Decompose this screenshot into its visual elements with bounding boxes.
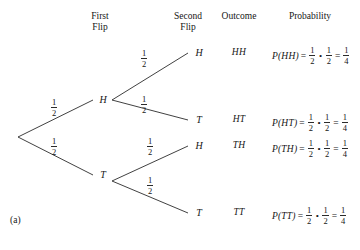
fraction-denominator: 2 — [141, 104, 147, 114]
fraction-numerator: 1 — [51, 98, 57, 107]
factor-two: 1 2 — [322, 206, 328, 225]
fraction-numerator: 1 — [308, 113, 314, 122]
outcome-ht: HT — [224, 114, 254, 124]
fraction-numerator: 1 — [343, 46, 349, 55]
multiplication-dot: • — [317, 118, 320, 128]
branch-label-h-to-t: 1 2 — [140, 95, 148, 114]
fraction-numerator: 1 — [326, 46, 332, 55]
factor-one: 1 2 — [306, 206, 312, 225]
fraction-numerator: 1 — [342, 113, 348, 122]
multiplication-dot: • — [316, 211, 319, 221]
fraction-numerator: 1 — [324, 113, 330, 122]
result-fraction: 1 4 — [342, 139, 348, 158]
probability-label: P(HH) — [272, 51, 299, 61]
fraction-denominator: 2 — [322, 215, 328, 225]
figure-caption: (a) — [10, 215, 21, 225]
equals-sign-result: = — [333, 144, 338, 154]
fraction-numerator: 1 — [308, 139, 314, 148]
fraction-numerator: 1 — [306, 206, 312, 215]
node-second-flip-t-lower: T — [192, 207, 206, 218]
node-second-flip-t-upper: T — [192, 114, 206, 125]
fraction-denominator: 4 — [340, 215, 346, 225]
fraction-denominator: 4 — [342, 148, 348, 158]
fraction-numerator: 1 — [147, 176, 153, 185]
outcome-th: TH — [224, 140, 254, 150]
branch-label-root-to-h: 1 2 — [50, 98, 58, 117]
fraction-denominator: 2 — [324, 148, 330, 158]
probability-label: P(TH) — [272, 144, 297, 154]
result-fraction: 1 4 — [342, 113, 348, 132]
fraction-numerator: 1 — [51, 137, 57, 146]
edge-h-to-t — [112, 100, 188, 120]
fraction-denominator: 4 — [343, 55, 349, 65]
fraction-denominator: 2 — [306, 215, 312, 225]
multiplication-dot: • — [319, 51, 322, 61]
node-second-flip-h-upper: H — [192, 47, 206, 58]
fraction-numerator: 1 — [342, 139, 348, 148]
fraction-denominator: 4 — [342, 122, 348, 132]
equals-sign-result: = — [335, 51, 340, 61]
fraction-numerator: 1 — [141, 95, 147, 104]
fraction-numerator: 1 — [147, 137, 153, 146]
outcome-tt: TT — [224, 207, 254, 217]
fraction-denominator: 2 — [141, 58, 147, 68]
multiplication-dot: • — [317, 144, 320, 154]
factor-two: 1 2 — [326, 46, 332, 65]
fraction-numerator: 1 — [324, 139, 330, 148]
fraction-denominator: 2 — [326, 55, 332, 65]
result-fraction: 1 4 — [343, 46, 349, 65]
factor-one: 1 2 — [309, 46, 315, 65]
probability-label: P(TT) — [272, 211, 296, 221]
branch-label-t-to-t: 1 2 — [146, 176, 154, 195]
fraction-denominator: 2 — [308, 148, 314, 158]
node-first-flip-h: H — [96, 94, 110, 105]
fraction-denominator: 2 — [308, 122, 314, 132]
fraction-denominator: 2 — [51, 146, 57, 156]
fraction-numerator: 1 — [309, 46, 315, 55]
node-first-flip-t: T — [96, 169, 110, 180]
probability-expression-hh: P(HH) = 1 2 • 1 2 = 1 4 — [272, 46, 350, 65]
equals-sign-result: = — [333, 118, 338, 128]
fraction-denominator: 2 — [309, 55, 315, 65]
equals-sign: = — [299, 118, 304, 128]
factor-one: 1 2 — [308, 113, 314, 132]
fraction-numerator: 1 — [322, 206, 328, 215]
branch-label-h-to-h: 1 2 — [140, 49, 148, 68]
edge-h-to-h — [112, 53, 188, 100]
result-fraction: 1 4 — [340, 206, 346, 225]
equals-sign-result: = — [332, 211, 337, 221]
fraction-numerator: 1 — [340, 206, 346, 215]
probability-expression-tt: P(TT) = 1 2 • 1 2 = 1 4 — [272, 206, 347, 225]
probability-expression-ht: P(HT) = 1 2 • 1 2 = 1 4 — [272, 113, 349, 132]
fraction-denominator: 2 — [324, 122, 330, 132]
equals-sign: = — [299, 144, 304, 154]
equals-sign: = — [301, 51, 306, 61]
branch-label-t-to-h: 1 2 — [146, 137, 154, 156]
probability-expression-th: P(TH) = 1 2 • 1 2 = 1 4 — [272, 139, 349, 158]
outcome-hh: HH — [224, 47, 254, 57]
fraction-denominator: 2 — [147, 146, 153, 156]
probability-label: P(HT) — [272, 118, 297, 128]
probability-tree-figure: First Flip Second Flip Outcome Probabili… — [0, 0, 360, 250]
fraction-numerator: 1 — [141, 49, 147, 58]
equals-sign: = — [298, 211, 303, 221]
factor-one: 1 2 — [308, 139, 314, 158]
node-second-flip-h-lower: H — [192, 140, 206, 151]
factor-two: 1 2 — [324, 113, 330, 132]
fraction-denominator: 2 — [51, 107, 57, 117]
fraction-denominator: 2 — [147, 185, 153, 195]
branch-label-root-to-t: 1 2 — [50, 137, 58, 156]
factor-two: 1 2 — [324, 139, 330, 158]
